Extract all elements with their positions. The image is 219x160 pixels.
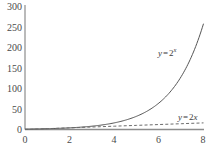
x-tick-label-2: 2 — [61, 135, 79, 145]
y-tick-label-150: 150 — [0, 64, 22, 74]
y-tick-label-100: 100 — [0, 84, 22, 94]
y-tick-label-200: 200 — [0, 43, 22, 53]
series-exponential-curve — [25, 24, 204, 129]
chart-container: 300 250 200 150 100 50 0 0 2 4 6 8 y=2x … — [0, 0, 219, 160]
y-tick-label-300: 300 — [0, 2, 22, 12]
y-tick-label-0: 0 — [0, 125, 22, 135]
y-tick-label-50: 50 — [0, 105, 22, 115]
series-linear-line — [25, 123, 204, 130]
x-tick-label-0: 0 — [16, 135, 34, 145]
series-label-linear: y=2x — [178, 113, 198, 122]
x-tick-label-4: 4 — [105, 135, 123, 145]
x-tick-label-8: 8 — [194, 135, 212, 145]
series-label-exponential: y=2x — [158, 49, 176, 58]
x-tick-label-6: 6 — [150, 135, 168, 145]
y-tick-label-250: 250 — [0, 23, 22, 33]
series-label-linear-x: x — [194, 112, 198, 122]
series-label-exponential-exponent: x — [174, 46, 177, 53]
